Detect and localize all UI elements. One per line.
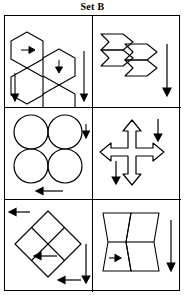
page-title: Set B — [0, 0, 185, 14]
puzzle-grid — [4, 15, 180, 291]
puzzle-page: Set B — [0, 0, 185, 299]
left-arrow-icon — [9, 208, 30, 215]
left-arrow-icon — [58, 276, 81, 283]
down-arrow-icon — [167, 220, 175, 271]
puzzle-cell-chevron-cluster[interactable] — [93, 16, 180, 107]
chevron-shape — [125, 60, 157, 76]
circle-shape — [48, 149, 82, 183]
circle-shape — [14, 115, 48, 149]
down-arrow-icon — [81, 51, 88, 101]
down-arrow-icon — [56, 60, 63, 73]
circle-shape — [14, 149, 48, 183]
puzzle-cell-hexagon-cluster[interactable] — [5, 16, 92, 107]
puzzle-cell-vertical-hexagon-pair[interactable] — [93, 200, 180, 291]
puzzle-cell-four-way-cross-arrow[interactable] — [93, 108, 180, 199]
circle-shape — [48, 115, 82, 149]
four-way-cross-arrow-shape — [100, 120, 164, 185]
right-arrow-icon — [21, 47, 35, 54]
puzzle-cell-circle-cluster[interactable] — [5, 108, 92, 199]
left-arrow-icon — [34, 252, 57, 259]
hexagon-shape — [43, 85, 75, 107]
down-arrow-icon — [112, 161, 120, 184]
puzzle-cell-diamond-quartered[interactable] — [5, 200, 92, 291]
down-arrow-icon — [83, 124, 90, 138]
left-arrow-icon — [36, 187, 63, 194]
right-arrow-icon — [109, 255, 121, 262]
chevron-shape — [125, 44, 157, 60]
down-arrow-icon — [154, 119, 162, 141]
down-arrow-icon — [82, 244, 90, 283]
down-arrow-icon — [163, 44, 171, 96]
down-arrow-icon — [12, 73, 19, 101]
